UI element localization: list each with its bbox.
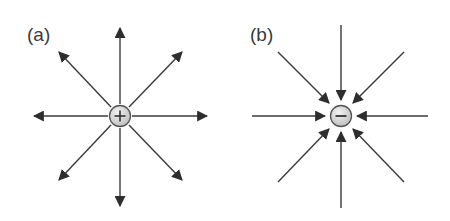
field-line-up-left [59,52,111,107]
electric-field-diagram [0,0,450,221]
field-line-from-up-left [278,52,329,103]
field-line-from-up-right [353,52,404,103]
field-line-down-left [59,125,111,180]
field-line-from-down-left [278,129,329,182]
positive-charge-icon [110,106,131,127]
field-line-up-right [129,52,182,107]
negative-charge-icon [331,106,352,127]
field-line-from-down-right [353,129,404,182]
field-line-down-right [129,125,182,180]
